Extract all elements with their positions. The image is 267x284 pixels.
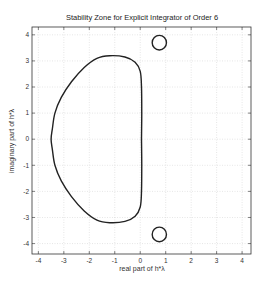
- y-tick-label: -1: [23, 162, 29, 169]
- y-tick-label: -2: [23, 188, 29, 195]
- x-axis-label: real part of h*λ: [119, 265, 165, 273]
- x-tick-label: -2: [86, 257, 92, 264]
- y-tick-label: 2: [25, 83, 29, 90]
- y-tick-label: -3: [23, 214, 29, 221]
- y-tick-label: 1: [25, 109, 29, 116]
- x-tick-label: -1: [112, 257, 118, 264]
- x-tick-label: 2: [189, 257, 193, 264]
- x-tick-label: -3: [61, 257, 67, 264]
- island-curve: [152, 227, 166, 242]
- y-tick-label: 0: [25, 135, 29, 142]
- chart-title: Stability Zone for Explicit Integrator o…: [66, 13, 218, 22]
- y-tick-label: -4: [23, 240, 29, 247]
- island-curve: [152, 35, 166, 50]
- x-tick-label: 3: [215, 257, 219, 264]
- y-axis-label: imaginary part of h*λ: [8, 108, 16, 173]
- x-tick-label: 1: [164, 257, 168, 264]
- x-tick-label: 0: [138, 257, 142, 264]
- plot-curves: [51, 35, 166, 241]
- chart-figure: Stability Zone for Explicit Integrator o…: [0, 0, 267, 284]
- y-tick-label: 3: [25, 57, 29, 64]
- x-tick-label: 4: [240, 257, 244, 264]
- x-tick-label: -4: [35, 257, 41, 264]
- y-tick-label: 4: [25, 31, 29, 38]
